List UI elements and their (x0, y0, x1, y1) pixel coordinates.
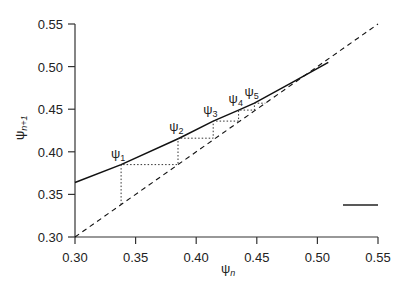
x-tick-label: 0.45 (244, 250, 269, 265)
x-axis-label: ψn (221, 261, 235, 278)
y-tick-label: 0.45 (38, 102, 63, 117)
x-tick-label: 0.30 (62, 250, 87, 265)
psi-5-label: ψ5 (244, 84, 258, 101)
y-axis-label: ψn+1 (12, 115, 29, 140)
x-tick-label: 0.35 (123, 250, 148, 265)
y-tick-label: 0.55 (38, 17, 63, 32)
y-tick-label: 0.50 (38, 60, 63, 75)
y-tick-label: 0.35 (38, 187, 63, 202)
y-tick-label: 0.40 (38, 145, 63, 160)
psi-1-label: ψ1 (111, 146, 125, 163)
identity-line (75, 24, 378, 237)
psi-3-label: ψ3 (203, 102, 217, 119)
series (75, 24, 378, 237)
x-tick-label: 0.40 (184, 250, 209, 265)
return-map-curve (75, 62, 328, 182)
x-tick-label: 0.55 (365, 250, 390, 265)
annotations: ψ1ψ2ψ3ψ4ψ5 (111, 84, 259, 162)
psi-4-label: ψ4 (229, 91, 243, 108)
x-tick-label: 0.50 (305, 250, 330, 265)
y-tick-label: 0.30 (38, 230, 63, 245)
psi-2-label: ψ2 (169, 119, 183, 136)
axes: 0.300.350.400.450.500.550.300.350.400.45… (38, 17, 391, 265)
cobweb-chart: 0.300.350.400.450.500.550.300.350.400.45… (0, 0, 403, 293)
